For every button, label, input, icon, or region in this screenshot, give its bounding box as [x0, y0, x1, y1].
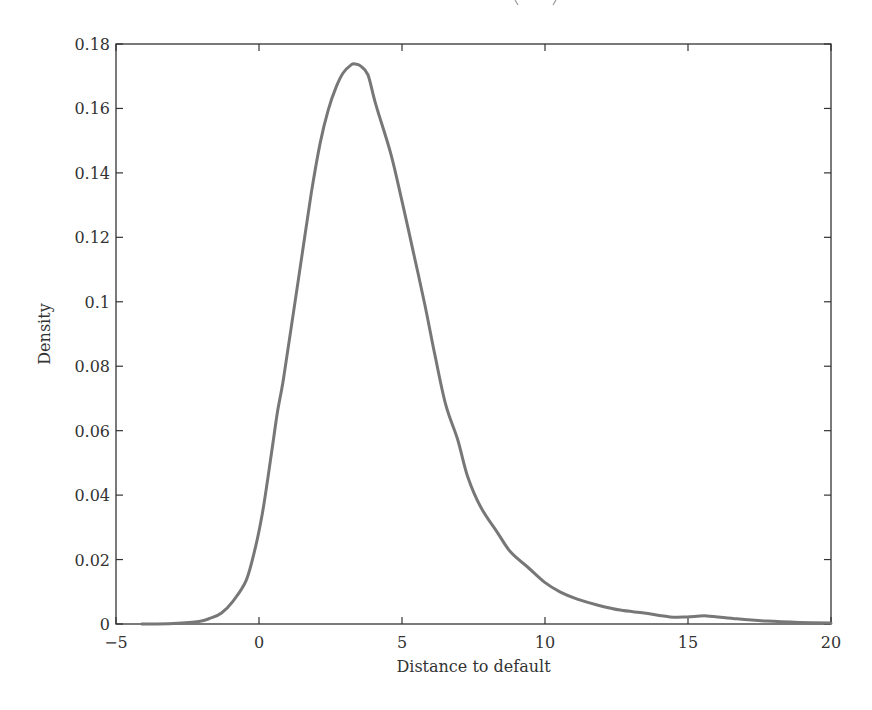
y-tick-label: 0.06	[74, 422, 110, 441]
y-tick-label: 0.04	[74, 486, 110, 505]
x-axis-ticks: −505101520	[104, 44, 841, 652]
clipped-title-fragment	[515, 0, 556, 5]
y-tick-label: 0.1	[85, 293, 110, 312]
y-tick-label: 0.16	[74, 99, 110, 118]
x-tick-label: 15	[678, 633, 698, 652]
x-tick-label: 20	[821, 633, 841, 652]
density-chart: 00.020.040.060.080.10.120.140.160.18 −50…	[0, 0, 872, 710]
y-axis-ticks: 00.020.040.060.080.10.120.140.160.18	[74, 35, 831, 634]
density-curve	[142, 64, 831, 624]
density-line	[142, 64, 831, 624]
x-tick-label: 5	[397, 633, 407, 652]
x-tick-label: 0	[254, 633, 264, 652]
y-tick-label: 0.18	[74, 35, 110, 54]
x-tick-label: 10	[535, 633, 555, 652]
y-tick-label: 0.14	[74, 164, 110, 183]
y-axis-label: Density	[35, 303, 54, 364]
y-tick-label: 0.02	[74, 551, 110, 570]
y-tick-label: 0.08	[74, 357, 110, 376]
y-tick-label: 0.12	[74, 228, 110, 247]
x-axis-label: Distance to default	[396, 657, 551, 676]
x-tick-label: −5	[104, 633, 128, 652]
plot-frame	[116, 44, 831, 624]
y-tick-label: 0	[100, 615, 110, 634]
